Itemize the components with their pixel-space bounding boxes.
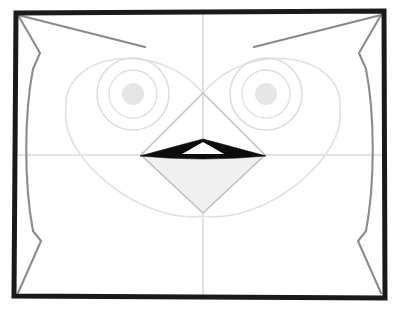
right-eye-pupil	[255, 83, 277, 105]
owl-face-sketch	[0, 0, 400, 311]
drawing-canvas	[0, 0, 400, 311]
left-eye-pupil	[122, 83, 144, 105]
